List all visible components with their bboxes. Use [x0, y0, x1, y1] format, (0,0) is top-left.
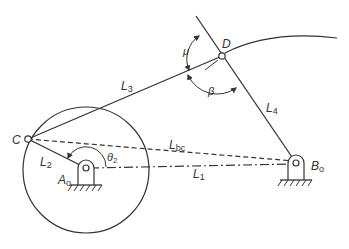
label-D: D [222, 37, 231, 51]
label-L1: L1 [193, 167, 205, 182]
tangent-tick [205, 60, 218, 70]
joint-D [219, 53, 225, 59]
label-mu: μ [182, 45, 189, 57]
label-L3: L3 [121, 79, 133, 94]
label-L2: L2 [40, 155, 52, 170]
ground-pivot-A0 [68, 160, 102, 191]
ground-link-L1 [90, 164, 294, 168]
label-C: C [12, 133, 21, 147]
four-bar-linkage-diagram: C D Ao Bo L1 L2 L3 L4 Lbc θ2 μ β [0, 0, 349, 249]
label-A0: Ao [57, 173, 71, 188]
label-theta2: θ2 [107, 151, 118, 165]
label-beta: β [207, 85, 215, 97]
link-L3 [28, 56, 222, 139]
coupler-curve [225, 36, 337, 53]
joint-C [25, 136, 31, 142]
label-L4: L4 [266, 101, 278, 116]
label-B0: Bo [311, 159, 324, 174]
ground-pivot-B0 [278, 155, 312, 186]
label-Lbc: Lbc [169, 138, 186, 153]
